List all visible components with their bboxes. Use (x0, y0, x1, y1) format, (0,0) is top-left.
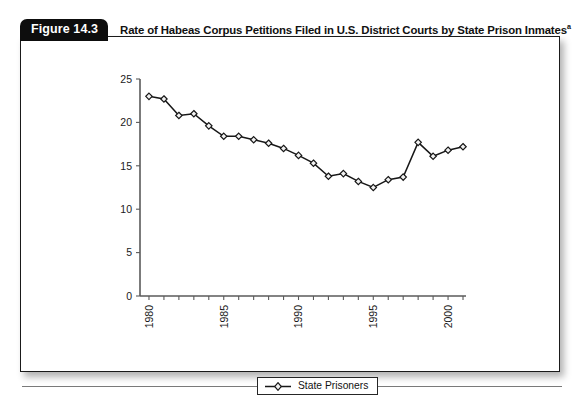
series-markers-state-prisoners (146, 93, 466, 191)
svg-text:0: 0 (126, 290, 132, 302)
svg-text:20: 20 (120, 116, 132, 128)
diamond-marker-icon (265, 382, 291, 391)
chart-plot-area: 0510152025 19801985199019952000 (21, 37, 561, 373)
svg-text:15: 15 (120, 160, 132, 172)
y-axis-ticks: 0510152025 (120, 73, 140, 302)
figure-title-text: Rate of Habeas Corpus Petitions Filed in… (120, 24, 567, 36)
svg-text:2000: 2000 (442, 305, 454, 329)
svg-text:1985: 1985 (218, 305, 230, 329)
figure-header: Figure 14.3 Rate of Habeas Corpus Petiti… (20, 18, 572, 42)
figure-title: Rate of Habeas Corpus Petitions Filed in… (120, 23, 571, 36)
svg-text:5: 5 (126, 246, 132, 258)
svg-text:10: 10 (120, 203, 132, 215)
legend-label-state-prisoners: State Prisoners (298, 381, 368, 391)
figure-title-footnote-marker: a (567, 22, 571, 31)
svg-text:1990: 1990 (292, 305, 304, 329)
x-axis-tick-labels: 19801985199019952000 (143, 305, 454, 329)
chart-legend: State Prisoners (257, 377, 378, 395)
svg-text:1995: 1995 (367, 305, 379, 329)
figure-number-badge: Figure 14.3 (20, 19, 108, 41)
line-chart: 0510152025 19801985199019952000 (21, 37, 561, 373)
svg-text:25: 25 (120, 73, 132, 85)
figure-card: 0510152025 19801985199019952000 State Pr… (20, 36, 560, 372)
svg-text:1980: 1980 (143, 305, 155, 329)
